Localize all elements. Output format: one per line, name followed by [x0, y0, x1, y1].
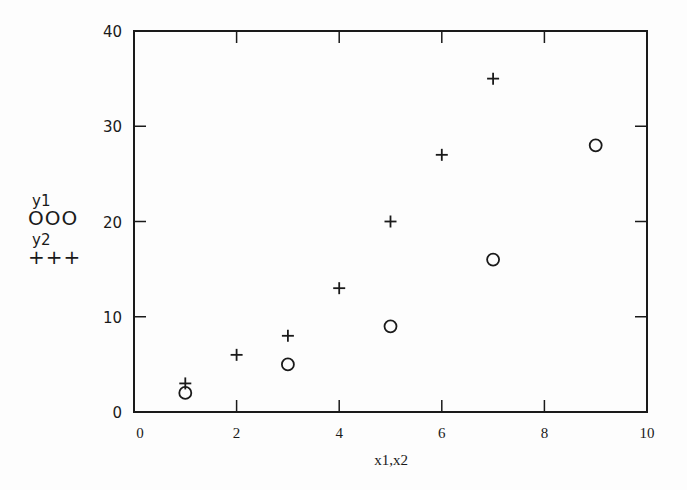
x-tick-label: 10: [640, 425, 655, 441]
x-axis-title: x1,x2: [374, 452, 408, 468]
x-tick-label: 8: [541, 425, 549, 441]
plus-marker: [231, 349, 243, 361]
x-tick-label: 6: [438, 425, 446, 441]
plus-marker: [436, 149, 448, 161]
series-y1: [179, 139, 601, 399]
plus-marker: [385, 216, 397, 228]
x-tick-label: 0: [136, 425, 144, 441]
x-axis-tick-labels: 0246810: [136, 425, 654, 441]
circle-marker: [282, 358, 294, 370]
plus-marker-icon: +++: [28, 245, 81, 269]
x-tick-label: 2: [233, 425, 241, 441]
x-tick-label: 4: [335, 425, 343, 441]
plus-marker: [487, 73, 499, 85]
y-tick-label: 30: [103, 118, 122, 136]
plus-marker: [333, 282, 345, 294]
y-tick-label: 0: [112, 404, 122, 422]
plus-marker: [282, 330, 294, 342]
circle-marker: [487, 254, 499, 266]
circle-marker: [590, 139, 602, 151]
y-tick-label: 20: [103, 214, 122, 232]
series-y2: [179, 73, 499, 390]
y-axis-tick-labels: 010203040: [103, 23, 122, 422]
circle-marker-icon: OOO: [28, 206, 78, 230]
circle-marker: [385, 320, 397, 332]
scatter-plot: 010203040 0246810 x1,x2: [0, 0, 687, 490]
y-tick-label: 40: [103, 23, 122, 41]
data-points: [179, 73, 601, 399]
y-tick-label: 10: [103, 309, 122, 327]
